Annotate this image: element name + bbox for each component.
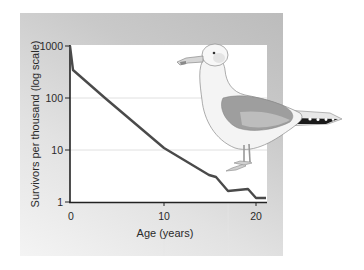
x-tick-label-0: 0 [68, 210, 74, 222]
x-tick-label-10: 10 [158, 210, 170, 222]
x-axis-title: Age (years) [137, 227, 194, 239]
y-axis-title: Survivors per thousand (log scale) [29, 41, 41, 208]
survivorship-chart: 1000 100 10 1 0 10 20 Age (years) Surviv… [0, 0, 364, 270]
y-tick-label-10: 10 [51, 144, 63, 156]
y-tick-label-1000: 1000 [40, 40, 64, 52]
y-tick-label-1: 1 [57, 196, 63, 208]
x-tick-label-20: 20 [250, 210, 262, 222]
y-tick-label-100: 100 [45, 92, 63, 104]
